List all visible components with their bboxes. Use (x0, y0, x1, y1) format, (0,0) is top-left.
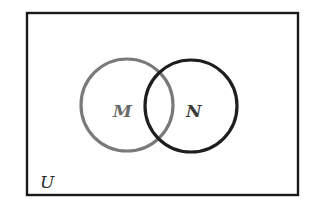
set-n-label: N (185, 101, 203, 121)
universal-set-label: U (40, 172, 55, 192)
universal-set-rectangle (27, 13, 298, 195)
set-m-label: M (112, 101, 133, 121)
venn-diagram: M N U (0, 0, 312, 206)
